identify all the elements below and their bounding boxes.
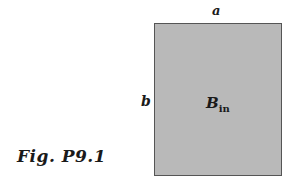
field-subscript: in [219,103,230,114]
figure-caption: Fig. P9.1 [17,146,106,166]
field-symbol: B [206,94,219,112]
magnetic-field-label: Bin [206,94,230,114]
width-label: a [212,3,220,18]
height-label: b [141,93,151,109]
